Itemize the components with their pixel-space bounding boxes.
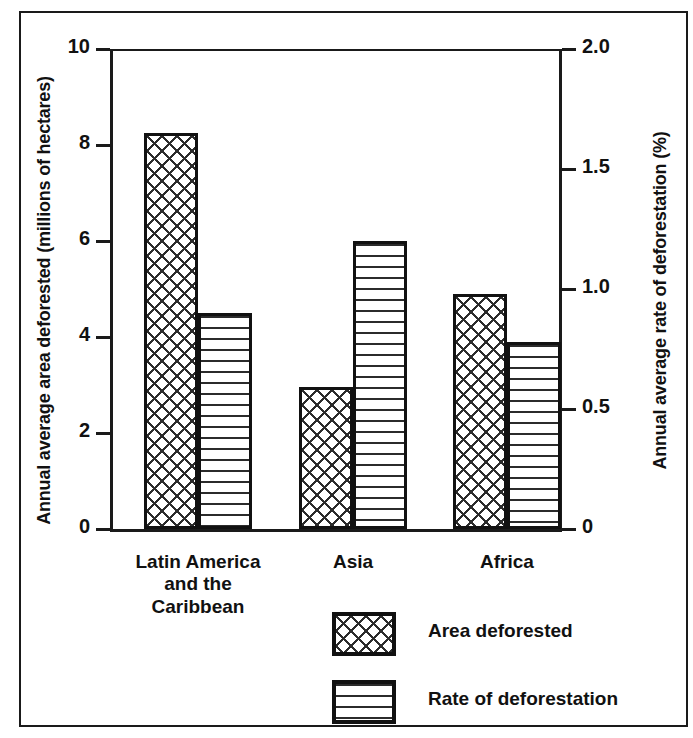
y-axis-right-tick-label: 1.0 [582, 275, 610, 298]
tick-mark [562, 168, 576, 171]
plot-top-line [110, 49, 562, 51]
y-axis-left-tick-label: 4 [79, 323, 90, 346]
category-label-line: and the [88, 573, 308, 595]
bar [353, 241, 407, 529]
y-axis-left-tick-label: 8 [79, 131, 90, 154]
y-axis-left-tick-label: 6 [79, 227, 90, 250]
bar [507, 342, 561, 529]
tick-mark [562, 288, 576, 291]
bar [198, 313, 252, 529]
y-axis-left-tick-label: 2 [79, 419, 90, 442]
legend-label-rate-of-deforestation: Rate of deforestation [428, 688, 618, 710]
tick-mark [96, 528, 110, 531]
x-axis-line [110, 529, 562, 532]
y-axis-left-tick-label: 0 [79, 515, 90, 538]
tick-mark [96, 336, 110, 339]
x-axis-category-label: Africa [397, 551, 617, 573]
y-axis-right-tick-label: 1.5 [582, 155, 610, 178]
y-axis-right-tick-label: 0 [582, 515, 593, 538]
tick-mark [96, 144, 110, 147]
y-axis-left-title: Annual average area deforested (millions… [34, 41, 55, 561]
y-axis-right-tick-label: 0.5 [582, 395, 610, 418]
category-label-line: Africa [397, 551, 617, 573]
tick-mark [96, 432, 110, 435]
chart-figure: Annual average area deforested (millions… [0, 0, 693, 738]
horizontal-lines-swatch-icon [332, 680, 396, 724]
plot-area: 0246810 00.51.01.52.0 [110, 49, 562, 532]
tick-mark [96, 48, 110, 51]
y-axis-right-title: Annual average rate of deforestation (%) [650, 41, 671, 561]
y-axis-left-line [110, 49, 113, 532]
legend-label-area-deforested: Area deforested [428, 620, 573, 642]
y-axis-left-tick-label: 10 [68, 35, 90, 58]
tick-mark [96, 240, 110, 243]
bar [144, 133, 198, 529]
tick-mark [562, 48, 576, 51]
bar [299, 387, 353, 529]
tick-mark [562, 408, 576, 411]
category-label-line: Caribbean [88, 596, 308, 618]
cross-hatch-swatch-icon [332, 612, 396, 656]
bar [453, 294, 507, 529]
tick-mark [562, 528, 576, 531]
y-axis-right-tick-label: 2.0 [582, 35, 610, 58]
